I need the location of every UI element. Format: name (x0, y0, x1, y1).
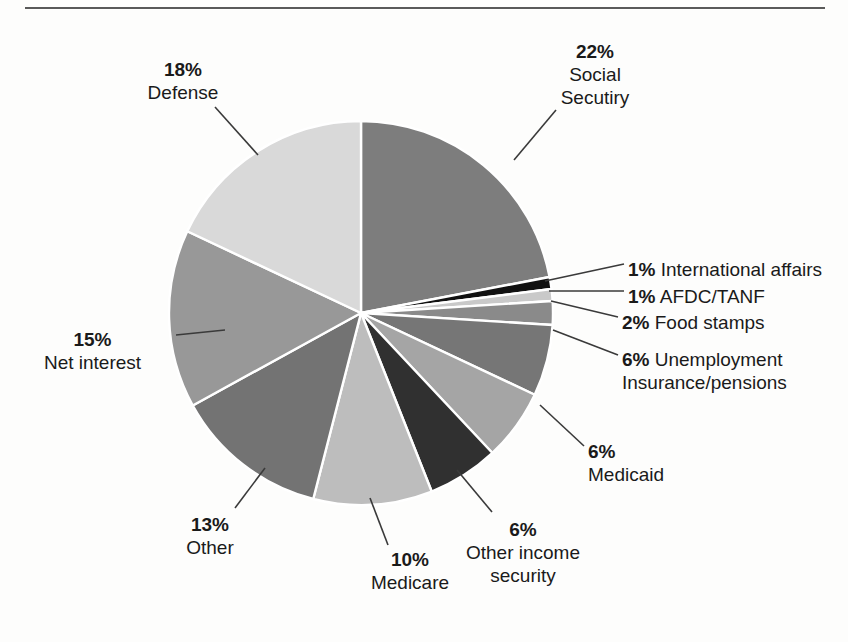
slice-name-unemployment: Unemployment (655, 349, 783, 370)
slice-percent-medicaid: 6% (588, 440, 664, 463)
slice-name-medicaid: Medicaid (588, 463, 664, 486)
slice-percent-net-interest: 15% (15, 328, 170, 351)
slice-label-medicaid: 6% Medicaid (588, 440, 664, 486)
slice-label-net-interest: 15% Net interest (15, 328, 170, 374)
slice-label-afdc-tanf: 1% AFDC/TANF (628, 285, 765, 308)
leader-line-international (545, 264, 624, 281)
slice-label-medicare: 10% Medicare (355, 548, 465, 594)
slice-label-other: 13% Other (155, 513, 265, 559)
slice-name-social-security-line2: Secutiry (520, 86, 670, 109)
slice-label-international-affairs: 1% International affairs (628, 258, 822, 281)
slice-percent-afdc-tanf: 1% (628, 286, 655, 307)
slice-percent-defense: 18% (108, 58, 258, 81)
slice-name-other-income-security-line2: security (448, 564, 598, 587)
slice-name-social-security-line1: Social (520, 63, 670, 86)
slice-label-unemployment: 6% Unemployment Insurance/pensions (622, 348, 787, 394)
pie-slice-group (169, 121, 553, 505)
slice-name-unemployment-line2: Insurance/pensions (622, 371, 787, 394)
leader-line-oisec (457, 470, 492, 512)
leader-line-medicaid (540, 405, 584, 446)
slice-name-defense: Defense (108, 81, 258, 104)
slice-name-other: Other (155, 536, 265, 559)
slice-label-food-stamps: 2% Food stamps (622, 311, 765, 334)
slice-percent-medicare: 10% (355, 548, 465, 571)
leader-line-food (551, 301, 618, 317)
leader-line-defense (215, 107, 258, 155)
slice-name-international-affairs: International affairs (661, 259, 822, 280)
slice-name-afdc-tanf: AFDC/TANF (660, 286, 765, 307)
slice-label-other-income-security: 6% Other income security (448, 518, 598, 588)
slice-name-net-interest: Net interest (15, 351, 170, 374)
slice-percent-other-income-security: 6% (448, 518, 598, 541)
pie-chart-figure: 22% Social Secutiry 18% Defense 1% Inter… (0, 0, 848, 642)
slice-label-social-security: 22% Social Secutiry (520, 40, 670, 110)
slice-label-unemployment-line1: 6% Unemployment (622, 348, 787, 371)
slice-label-defense: 18% Defense (108, 58, 258, 104)
leader-line-social (514, 110, 556, 160)
slice-percent-food-stamps: 2% (622, 312, 649, 333)
slice-percent-international-affairs: 1% (628, 259, 655, 280)
slice-name-food-stamps: Food stamps (655, 312, 765, 333)
leader-line-unemployment (553, 330, 618, 355)
slice-percent-other: 13% (155, 513, 265, 536)
leader-line-other (235, 468, 265, 508)
slice-percent-unemployment: 6% (622, 349, 649, 370)
slice-name-other-income-security-line1: Other income (448, 541, 598, 564)
slice-name-medicare: Medicare (355, 571, 465, 594)
slice-percent-social-security: 22% (520, 40, 670, 63)
